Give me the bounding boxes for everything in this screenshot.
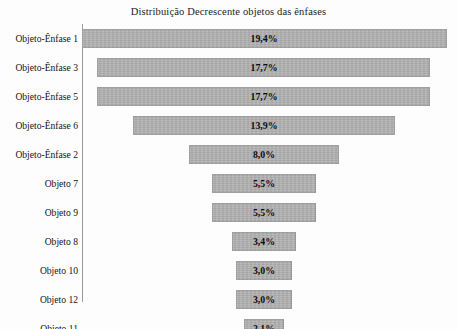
bar-container: 3,4% [232,232,296,251]
bar: 3,4% [232,232,296,251]
bar-row: Objeto-Ênfase 119,4% [0,24,457,53]
bar-row: Objeto 95,5% [0,198,457,227]
bar-value-label: 3,0% [236,261,292,280]
bar: 17,7% [97,58,430,77]
category-label: Objeto 9 [0,198,78,227]
bar: 3,0% [236,290,292,309]
bar-value-label: 3,0% [236,290,292,309]
bar-container: 2,1% [244,319,284,329]
bar: 8,0% [189,145,340,164]
bar-row: Objeto-Ênfase 317,7% [0,53,457,82]
bar: 13,9% [133,116,395,135]
bar: 2,1% [244,319,284,329]
bar-value-label: 17,7% [97,58,430,77]
category-label: Objeto 7 [0,169,78,198]
bar-row: Objeto 103,0% [0,256,457,285]
bar-row: Objeto-Ênfase 613,9% [0,111,457,140]
bar-container: 13,9% [133,116,395,135]
bar-row: Objeto 83,4% [0,227,457,256]
bar-value-label: 2,1% [244,319,284,329]
bar-container: 17,7% [97,87,430,106]
bar-row: Objeto 75,5% [0,169,457,198]
category-label: Objeto-Ênfase 1 [0,24,78,53]
bar-value-label: 17,7% [97,87,430,106]
category-label: Objeto 12 [0,285,78,314]
bar-container: 5,5% [212,203,315,222]
bar-value-label: 3,4% [232,232,296,251]
bar-container: 19,4% [82,29,447,48]
bar: 19,4% [82,29,447,48]
bar-container: 5,5% [212,174,315,193]
bar-value-label: 19,4% [82,29,447,48]
bar-row: Objeto-Ênfase 28,0% [0,140,457,169]
bar-value-label: 5,5% [212,203,315,222]
category-label: Objeto 8 [0,227,78,256]
bar: 5,5% [212,203,315,222]
category-label: Objeto-Ênfase 5 [0,82,78,111]
bar: 17,7% [97,87,430,106]
bar-value-label: 8,0% [189,145,340,164]
funnel-chart: Distribuição Decrescente objetos das ênf… [0,0,457,329]
plot-area: Objeto-Ênfase 119,4%Objeto-Ênfase 317,7%… [0,24,457,329]
bar-container: 3,0% [236,290,292,309]
bar: 5,5% [212,174,315,193]
category-label: Objeto-Ênfase 3 [0,53,78,82]
bar-value-label: 5,5% [212,174,315,193]
category-label: Objeto 10 [0,256,78,285]
category-label: Objeto-Ênfase 2 [0,140,78,169]
bar-row: Objeto 123,0% [0,285,457,314]
chart-title: Distribuição Decrescente objetos das ênf… [0,6,457,17]
category-label: Objeto-Ênfase 6 [0,111,78,140]
bar-row: Objeto-Ênfase 517,7% [0,82,457,111]
bar-container: 17,7% [97,58,430,77]
bar-container: 3,0% [236,261,292,280]
category-label: Objeto 11 [0,314,78,329]
bar-container: 8,0% [189,145,340,164]
bar-value-label: 13,9% [133,116,395,135]
bar: 3,0% [236,261,292,280]
bar-row: Objeto 112,1% [0,314,457,329]
